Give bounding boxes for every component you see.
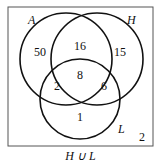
region-outside: 2 [139,130,145,144]
region-a-l: 2 [54,79,60,93]
region-l-only: 1 [77,110,83,124]
region-h-l: 6 [101,79,107,93]
label-l: L [117,122,125,136]
region-a-h: 16 [74,39,86,53]
region-a-only: 50 [34,45,46,59]
label-h: H [126,13,137,27]
region-h-only: 15 [114,45,126,59]
diagram-caption: H ∪ L [0,149,161,164]
region-a-h-l: 8 [77,68,83,82]
venn-diagram: A H L 50 16 15 8 2 6 1 2 [0,0,161,165]
label-a: A [27,13,36,27]
